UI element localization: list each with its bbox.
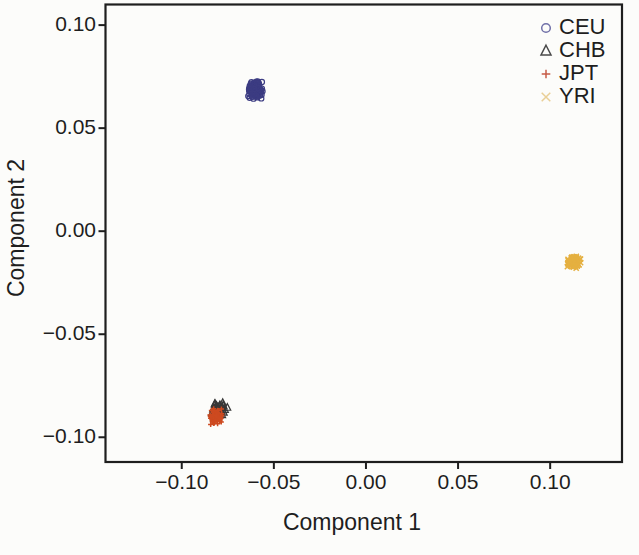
- legend-item-ceu: CEU: [542, 14, 606, 39]
- x-tick-label: 0.00: [346, 470, 387, 493]
- y-tick-label: 0.10: [55, 12, 96, 35]
- legend-item-chb: CHB: [541, 37, 605, 62]
- legend-label-jpt: JPT: [559, 60, 598, 85]
- scatter-plot-canvas: −0.10−0.050.000.050.10 −0.10−0.050.000.0…: [0, 0, 639, 555]
- y-tick-label: −0.10: [43, 424, 96, 447]
- y-tick-label: 0.05: [55, 115, 96, 138]
- legend-item-jpt: JPT: [542, 60, 598, 85]
- x-axis-title: Component 1: [283, 509, 421, 535]
- plot-border-box: [106, 5, 623, 463]
- cluster-ceu: [246, 79, 265, 101]
- x-tick-label: 0.05: [438, 470, 479, 493]
- plot-legend: CEUCHBJPTYRI: [541, 14, 605, 108]
- scatter-points: [207, 79, 583, 427]
- x-icon: [542, 93, 551, 102]
- y-tick-label: 0.00: [55, 218, 96, 241]
- cluster-jpt: [207, 406, 224, 427]
- legend-label-ceu: CEU: [559, 14, 605, 39]
- mds-scatter-figure: −0.10−0.050.000.050.10 −0.10−0.050.000.0…: [0, 0, 639, 555]
- circle-icon: [542, 24, 551, 33]
- y-axis-tick-labels: −0.10−0.050.000.050.10: [43, 12, 96, 447]
- legend-label-yri: YRI: [559, 83, 596, 108]
- y-tick-label: −0.05: [43, 321, 96, 344]
- legend-label-chb: CHB: [559, 37, 605, 62]
- y-axis-title: Component 2: [3, 159, 29, 297]
- x-tick-label: 0.10: [530, 470, 571, 493]
- plus-icon: [542, 70, 551, 79]
- x-axis-tick-labels: −0.10−0.050.000.050.10: [155, 470, 570, 493]
- cluster-yri: [565, 254, 583, 271]
- x-tick-label: −0.10: [155, 470, 208, 493]
- x-tick-label: −0.05: [247, 470, 300, 493]
- legend-item-yri: YRI: [542, 83, 596, 108]
- triangle-icon: [541, 45, 551, 55]
